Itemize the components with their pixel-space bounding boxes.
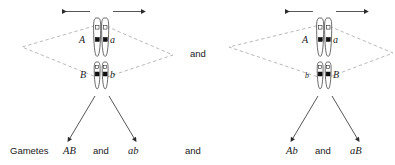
locus-open-marker	[326, 65, 329, 68]
gamete-right-label: ab	[128, 145, 139, 156]
allele-label-lower-left: B	[80, 69, 86, 80]
allele-label-upper-right: a	[333, 34, 338, 45]
lower-chromosome-pair: b B	[305, 62, 339, 89]
chromosome-b	[317, 62, 323, 89]
locus-open-marker	[318, 65, 321, 68]
left-panel: A a B b	[10, 12, 173, 157]
middle-conjunction: and	[190, 48, 206, 59]
locus-open-marker	[103, 65, 106, 68]
gamete-arrow-right	[332, 96, 357, 138]
locus-b-marker	[103, 72, 107, 76]
locus-a-marker	[326, 37, 330, 41]
allele-label-upper-left: A	[301, 34, 309, 45]
chromosome-A	[317, 18, 324, 56]
locus-open-marker	[103, 26, 107, 30]
right-panel: A a b B	[229, 12, 393, 157]
gamete-conjunction-left: and	[93, 145, 109, 156]
allele-label-lower-left: b	[305, 71, 309, 80]
upper-chromosome-pair: A a	[301, 18, 338, 56]
gamete-right-label: aB	[350, 145, 362, 156]
locus-B-marker	[326, 72, 330, 76]
chromosome-B	[94, 62, 100, 89]
gamete-left-label: Ab	[285, 145, 298, 156]
gamete-arrow-left	[293, 96, 318, 138]
independent-assortment-diagram: A a B b	[0, 0, 395, 165]
locus-open-marker	[326, 26, 330, 30]
allele-label-upper-right: a	[110, 34, 115, 45]
locus-open-marker	[95, 65, 98, 68]
gametes-row-label: Gametes	[10, 145, 49, 156]
gamete-arrow-right	[109, 96, 134, 138]
bottom-conjunction: and	[185, 145, 201, 156]
dashed-assortment-guide	[229, 24, 393, 79]
upper-chromosome-pair: A a	[78, 18, 115, 56]
gamete-arrow-left	[70, 96, 95, 138]
locus-A-marker	[318, 37, 322, 41]
locus-open-marker	[95, 26, 99, 30]
gamete-left-label: AB	[62, 145, 76, 156]
locus-open-marker	[318, 26, 322, 30]
locus-a-marker	[103, 37, 107, 41]
allele-label-lower-right: b	[110, 69, 115, 80]
locus-A-marker	[95, 37, 99, 41]
lower-chromosome-pair: B b	[80, 62, 115, 89]
locus-B-marker	[95, 72, 99, 76]
locus-b-marker	[318, 72, 322, 76]
allele-label-lower-right: B	[333, 69, 339, 80]
chromosome-a	[325, 18, 332, 56]
chromosome-b	[102, 62, 108, 89]
chromosome-B	[325, 62, 331, 89]
figure-canvas: A a B b	[0, 0, 395, 165]
chromosome-A	[94, 18, 101, 56]
gamete-conjunction-right: and	[315, 145, 331, 156]
allele-label-upper-left: A	[78, 34, 86, 45]
chromosome-a	[102, 18, 109, 56]
